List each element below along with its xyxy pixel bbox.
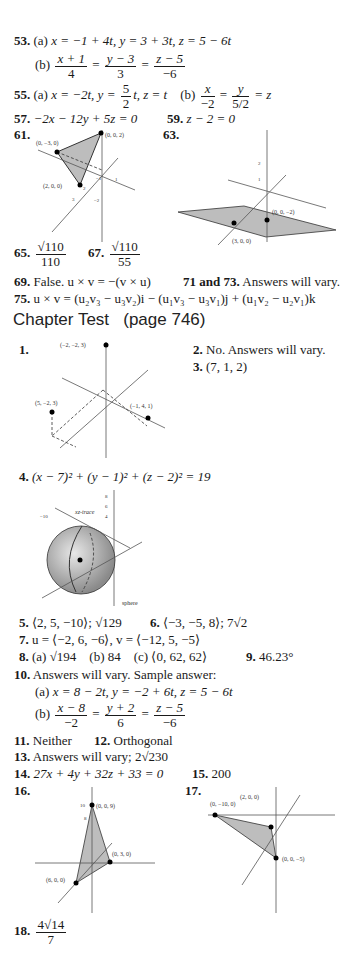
test-q1-label: 1.: [19, 342, 29, 357]
graph-test-q16: (0, 0, 9) (0, 3, 0) (6, 0, 0) 10 8: [30, 785, 170, 915]
answer-55: 55. (a) x = −2t, y = 52t, z = t (b) x−2 …: [14, 82, 271, 111]
svg-text:(0, −3, 0): (0, −3, 0): [36, 140, 58, 147]
test-q17-label: 17.: [185, 783, 201, 798]
graph-test-q4: xz-trace sphere 8 6 4 −10: [30, 488, 170, 608]
answer-71-73: 71 and 73. Answers will vary.: [183, 274, 340, 289]
answer-53a: 53. (a) x = −1 + 4t, y = 3 + 3t, z = 5 −…: [14, 33, 231, 48]
svg-text:xz-trace: xz-trace: [74, 509, 95, 515]
test-q11: 11. Neither: [14, 733, 72, 748]
svg-text:8: 8: [105, 494, 108, 499]
svg-text:(0, 0, −5): (0, 0, −5): [282, 856, 304, 863]
svg-text:−1: −1: [96, 176, 102, 181]
test-q12: 12. Orthogonal: [94, 733, 173, 748]
svg-text:(−1, 4, 1): (−1, 4, 1): [130, 403, 152, 410]
svg-text:(0, 0, 2): (0, 0, 2): [105, 132, 124, 139]
svg-text:1: 1: [115, 177, 118, 182]
svg-text:3: 3: [72, 197, 75, 202]
test-q18: 18. 4√147: [14, 918, 68, 947]
svg-text:(0, −10, 0): (0, −10, 0): [210, 801, 235, 808]
svg-text:(2, 0, 0): (2, 0, 0): [43, 183, 62, 190]
test-q14: 14. 27x + 4y + 32z + 33 = 0: [14, 766, 163, 781]
svg-text:(6, 0, 0): (6, 0, 0): [46, 877, 65, 884]
graph-63: (0, 0, −2) (3, 0, 0) 2 1: [176, 130, 336, 245]
test-q10: 10. Answers will vary. Sample answer:: [14, 667, 216, 682]
svg-text:4: 4: [105, 514, 108, 519]
svg-text:2: 2: [258, 161, 261, 166]
answer-67: 67. √11055: [88, 240, 142, 269]
svg-text:(0, 0, 9): (0, 0, 9): [96, 803, 115, 810]
answer-69: 69. False. u × v = −(v × u): [14, 274, 151, 289]
test-q6: 6. ⟨−3, −5, 8⟩; 7√2: [150, 615, 247, 630]
svg-text:(−2, −2, 3): (−2, −2, 3): [60, 342, 86, 349]
test-q2: 2. No. Answers will vary.: [193, 342, 325, 357]
test-q9: 9. 46.23°: [246, 649, 293, 664]
svg-text:1: 1: [258, 177, 261, 182]
svg-text:2: 2: [83, 186, 86, 191]
svg-text:(3, 0, 0): (3, 0, 0): [232, 238, 251, 245]
answer-61-label: 61.: [14, 127, 30, 142]
svg-text:−10: −10: [40, 514, 48, 519]
test-q4: 4. (x − 7)² + (y − 1)² + (z − 2)² = 19: [19, 469, 210, 484]
test-q13: 13. Answers will vary; 2√230: [14, 749, 168, 764]
answer-57: 57. −2x − 12y + 5z = 0: [14, 111, 137, 126]
svg-text:6: 6: [105, 504, 108, 509]
test-q10b: (b) x − 8−2 = y + 26 = z − 5−6: [35, 701, 187, 730]
svg-text:10: 10: [80, 803, 86, 808]
test-q10a: (a) x = 8 − 2t, y = −2 + 6t, z = 5 − 6t: [35, 684, 233, 699]
svg-text:−2: −2: [94, 198, 100, 203]
answer-65: 65. √110110: [14, 240, 68, 269]
test-q7: 7. u = ⟨−2, 6, −6⟩, v = ⟨−12, 5, −5⟩: [19, 632, 200, 647]
svg-text:sphere: sphere: [122, 600, 138, 606]
svg-text:(2, 0, 0): (2, 0, 0): [240, 794, 259, 801]
svg-text:8: 8: [84, 816, 87, 821]
answer-53b: (b) x + 14 = y − 33 = z − 5−6: [35, 52, 187, 81]
answer-59: 59. z − 2 = 0: [167, 111, 235, 126]
svg-text:(0, 3, 0): (0, 3, 0): [112, 851, 131, 858]
test-q8: 8. (a) √194 (b) 84 (c) ⟨0, 62, 62⟩: [19, 649, 207, 664]
test-q16-label: 16.: [14, 783, 30, 798]
svg-text:(0, 0, −2): (0, 0, −2): [272, 209, 294, 216]
graph-test-q17: (2, 0, 0) (0, −10, 0) (0, 0, −5): [200, 785, 340, 915]
answer-75: 75. u × v = (u₂v₃ − u₃v₂)i − (u₁v₃ − u₃v…: [14, 291, 315, 306]
chapter-test-heading: Chapter Test (page 746): [13, 310, 205, 330]
test-q15: 15. 200: [192, 766, 231, 781]
graph-61: (0, 0, 2) (0, −3, 0) (2, 0, 0) 1 −1 2 3 …: [30, 130, 140, 245]
test-q5: 5. ⟨2, 5, −10⟩; √129: [19, 615, 122, 630]
svg-text:(5, −2, 3): (5, −2, 3): [35, 400, 57, 407]
test-q3: 3. (7, 1, 2): [193, 359, 247, 374]
graph-test-q1: (−2, −2, 3) (5, −2, 3) (−1, 4, 1): [30, 340, 180, 460]
